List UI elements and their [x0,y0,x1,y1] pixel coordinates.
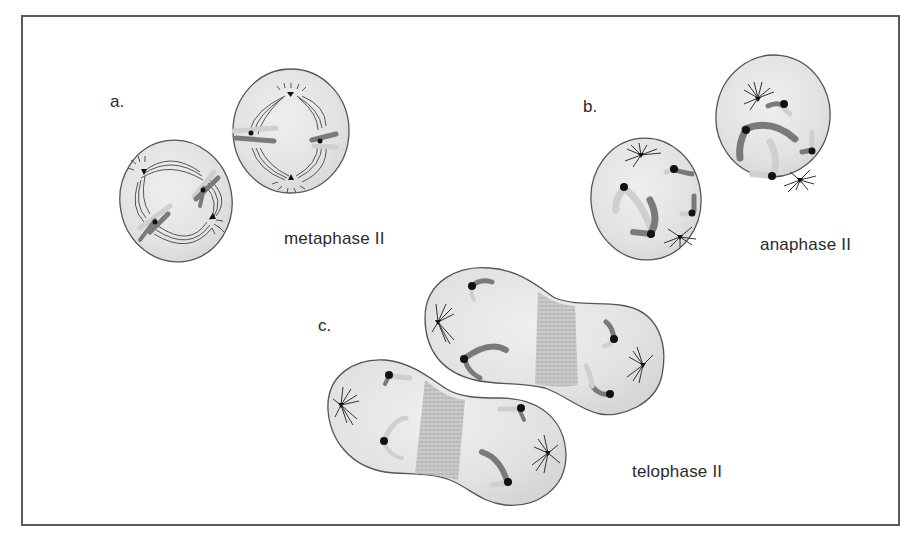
metaphase-cell-right [233,69,349,193]
panel-letter-b: b. [583,97,597,117]
anaphase-cell-right [708,48,838,192]
panel-c-telophase [328,268,664,506]
stage-label-anaphase: anaphase II [760,235,851,255]
meiosis-ii-illustration [0,0,917,551]
telophase-cell-upper [425,268,664,415]
panel-b-anaphase [585,48,838,266]
stage-label-telophase: telophase II [632,462,722,482]
anaphase-cell-left [585,133,707,266]
stage-label-metaphase: metaphase II [284,229,385,249]
panel-letter-a: a. [110,92,124,112]
panel-letter-c: c. [318,316,331,336]
metaphase-cell-left [110,131,241,271]
